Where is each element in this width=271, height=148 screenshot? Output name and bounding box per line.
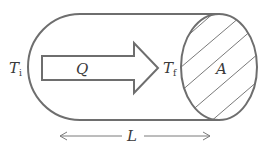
length-label: L — [126, 127, 137, 145]
initial-temp-label: Ti — [9, 59, 22, 78]
heat-flow-arrow — [42, 43, 158, 93]
rod-diagram: Ti Q Tf A L — [0, 0, 271, 148]
final-temp-label: Tf — [163, 59, 177, 78]
area-label: A — [214, 60, 227, 78]
heat-label: Q — [76, 60, 88, 78]
